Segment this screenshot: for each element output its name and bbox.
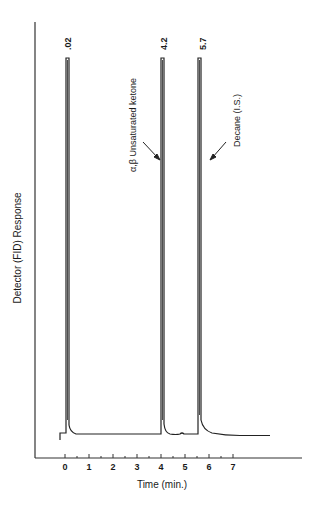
peak-label-2: 4.2 — [159, 37, 169, 50]
tick-label: 2 — [110, 462, 115, 472]
tick-label: 3 — [134, 462, 139, 472]
chromatogram-chart: 0 1 2 3 4 5 6 7 Time (min.) Detector (FI… — [0, 0, 315, 507]
peak-label-3: 5.7 — [198, 37, 208, 50]
x-axis-label: Time (min.) — [137, 479, 187, 490]
arrow-icon — [143, 142, 160, 160]
tick-label: 0 — [62, 462, 67, 472]
tick-label: 5 — [182, 462, 187, 472]
y-axis-label: Detector (FID) Response — [12, 192, 23, 304]
tick-label: 6 — [206, 462, 211, 472]
tick-label: 4 — [158, 462, 163, 472]
arrow-icon — [210, 142, 226, 160]
tick-label: 1 — [86, 462, 91, 472]
annotation-decane: Decane (I.S.) — [232, 94, 242, 147]
x-axis-tick-labels: 0 1 2 3 4 5 6 7 — [62, 462, 235, 472]
tick-label: 7 — [230, 462, 235, 472]
peak-label-1: .02 — [63, 37, 73, 50]
annotation-ketone: α,β Unsaturated ketone — [128, 78, 138, 172]
